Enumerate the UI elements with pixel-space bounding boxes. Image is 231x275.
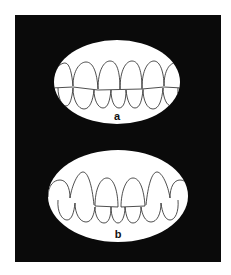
panel-b-label: b [115, 228, 122, 240]
panel-a-label: a [114, 110, 121, 122]
teeth-diagram: a b [0, 0, 231, 275]
panel-b: b [48, 150, 190, 242]
panel-a: a [52, 40, 182, 124]
